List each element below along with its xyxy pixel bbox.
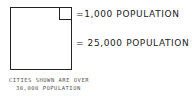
- legend-note-line2: 30,000 POPULATION: [16, 85, 81, 91]
- large-square-label: = 25,000 POPULATION: [76, 38, 189, 48]
- small-square-label: =1,000 POPULATION: [76, 9, 180, 19]
- small-square-symbol: [59, 7, 72, 20]
- legend-note-line1: CITIES SHOWN ARE OVER: [9, 77, 89, 83]
